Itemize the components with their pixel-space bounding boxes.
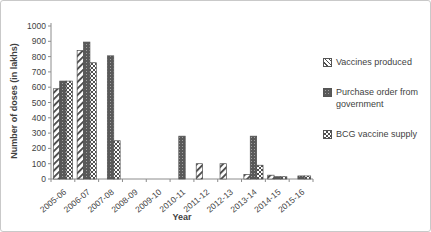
legend-label-vaccines-produced: Vaccines produced xyxy=(336,57,412,68)
svg-text:900: 900 xyxy=(32,36,46,46)
legend-swatch-hatch-icon xyxy=(323,58,332,67)
svg-text:600: 600 xyxy=(32,82,46,92)
svg-text:2009-10: 2009-10 xyxy=(133,187,164,215)
svg-text:700: 700 xyxy=(32,67,46,77)
svg-text:400: 400 xyxy=(32,113,46,123)
svg-text:1000: 1000 xyxy=(27,21,46,31)
svg-text:500: 500 xyxy=(32,98,46,108)
svg-text:0: 0 xyxy=(41,174,46,184)
x-axis-title: Year xyxy=(172,212,191,222)
y-axis-title: Number of doses (in lakhs) xyxy=(9,43,19,159)
legend-label-purchase-order: Purchase order from government xyxy=(336,87,429,110)
svg-text:2015-16: 2015-16 xyxy=(276,187,307,215)
legend-item-purchase-order: Purchase order from government xyxy=(323,87,429,110)
legend-item-bcg-supply: BCG vaccine supply xyxy=(323,129,429,140)
svg-text:100: 100 xyxy=(32,159,46,169)
chart-figure: 010020030040050060070080090010002005-062… xyxy=(0,0,431,232)
legend-swatch-dark-icon xyxy=(323,88,332,97)
legend-swatch-checker-icon xyxy=(323,130,332,139)
legend-item-vaccines-produced: Vaccines produced xyxy=(323,57,429,68)
svg-text:300: 300 xyxy=(32,128,46,138)
svg-text:800: 800 xyxy=(32,52,46,62)
svg-text:200: 200 xyxy=(32,143,46,153)
chart-legend: Vaccines produced Purchase order from go… xyxy=(323,57,429,140)
legend-label-bcg-supply: BCG vaccine supply xyxy=(336,129,417,140)
